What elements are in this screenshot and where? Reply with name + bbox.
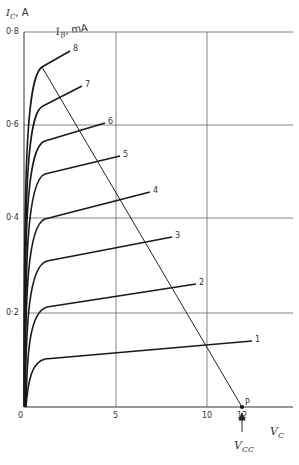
curve-label-7: 7: [85, 81, 90, 89]
curve-ib-2: [26, 284, 196, 407]
y-tick-0.8: 0·8: [6, 28, 19, 36]
x-tick-0: 0: [18, 412, 23, 420]
vcc-subscript: CC: [242, 445, 254, 454]
x-tick-10: 10: [202, 412, 212, 420]
point-p-marker: [240, 405, 244, 409]
vcc-label: VCC: [234, 440, 254, 454]
series-title-unit: , mA: [64, 22, 88, 36]
ib-curves: [24, 51, 252, 407]
y-axis-unit: , A: [15, 7, 28, 18]
y-tick-0.2: 0·2: [6, 309, 19, 317]
curve-label-5: 5: [123, 151, 128, 159]
curve-label-2: 2: [199, 279, 204, 287]
curve-label-6: 6: [108, 118, 113, 126]
point-p-label: P: [245, 399, 250, 407]
curve-ib-5: [25, 156, 120, 407]
characteristic-chart: [0, 0, 299, 465]
x-tick-5: 5: [113, 412, 118, 420]
curve-label-8: 8: [73, 45, 78, 53]
curve-ib-3: [25, 237, 172, 407]
vcc-symbol: V: [234, 439, 242, 452]
x-axis-title: VC: [270, 426, 284, 440]
x-tick-12: 12: [237, 412, 247, 420]
curve-ib-1: [26, 341, 252, 407]
y-tick-0.6: 0·6: [6, 121, 19, 129]
grid: [24, 32, 293, 407]
curve-label-4: 4: [153, 187, 158, 195]
axes: [24, 32, 293, 407]
curve-label-3: 3: [175, 232, 180, 240]
curve-ib-4: [25, 192, 150, 407]
curve-label-1: 1: [255, 336, 260, 344]
x-axis-subscript: C: [278, 431, 284, 440]
x-axis-symbol: V: [270, 425, 278, 438]
y-axis-title: IC, A: [6, 8, 29, 21]
y-tick-0.4: 0·4: [6, 214, 19, 222]
